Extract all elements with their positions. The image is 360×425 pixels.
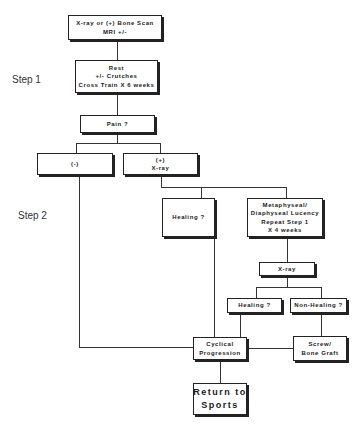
edge-to-healing-2 [256, 287, 257, 298]
node-imaging-line-2: MRI +/- [103, 28, 127, 36]
node-rest-line-1: Rest [109, 64, 124, 72]
node-lucency: Metaphyseal/ Diaphyseal Lucency Repeat S… [247, 198, 323, 237]
node-screw: Screw/ Bone Graft [293, 336, 347, 361]
edge-positive-split [161, 187, 286, 188]
node-imaging-line-1: X-ray or (+) Bone Scan [76, 19, 154, 27]
node-xray-2: X-ray [259, 262, 315, 276]
edge-rest-pain [117, 93, 118, 115]
node-rest-line-2: +/- Crutches [95, 72, 137, 80]
node-rest-line-3: Cross Train X 6 weeks [79, 81, 155, 89]
edge-to-healing-1 [201, 187, 202, 198]
node-negative: (-) [37, 153, 113, 175]
node-xray-2-line-1: X-ray [278, 265, 296, 273]
node-positive-line-1: (+) [156, 156, 165, 164]
node-rest: Rest +/- Crutches Cross Train X 6 weeks [75, 60, 158, 93]
edge-cyclical-return [220, 360, 221, 383]
node-positive-line-2: X-ray [151, 164, 169, 172]
node-lucency-line-4: X 4 weeks [268, 226, 302, 234]
node-negative-line-1: (-) [71, 160, 79, 168]
node-healing-2-line-1: Healing ? [238, 301, 270, 309]
node-pain: Pain ? [80, 115, 155, 133]
edge-imaging-rest [117, 40, 118, 60]
node-positive-xray: (+) X-ray [123, 153, 198, 175]
edge-to-positive [160, 143, 161, 153]
edge-negative-down [79, 175, 80, 347]
node-cyclical-line-2: Progression [199, 349, 241, 357]
node-healing-1: Healing ? [162, 198, 215, 237]
edge-to-negative [76, 143, 77, 153]
edge-xray-branch [287, 276, 288, 287]
edge-non-healing-screw [321, 313, 322, 336]
edge-xray-split [256, 287, 322, 288]
node-healing-2: Healing ? [227, 298, 282, 313]
edge-pain-branch [117, 133, 118, 143]
node-cyclical: Cyclical Progression [193, 337, 247, 360]
node-lucency-line-2: Diaphyseal Lucency [251, 209, 320, 217]
edge-healing-1-cyclical [214, 237, 215, 337]
node-pain-line-1: Pain ? [107, 120, 129, 128]
edge-healing-2-cyclical [240, 313, 241, 337]
node-imaging: X-ray or (+) Bone Scan MRI +/- [68, 15, 162, 40]
node-non-healing: Non-Healing ? [290, 298, 347, 313]
step-1-label: Step 1 [12, 74, 41, 85]
node-cyclical-line-1: Cyclical [206, 340, 233, 348]
edge-pain-split [76, 143, 161, 144]
node-healing-1-line-1: Healing ? [172, 213, 204, 221]
edge-screw-cyclical [247, 348, 293, 349]
node-non-healing-line-1: Non-Healing ? [294, 301, 342, 309]
node-screw-line-1: Screw/ [309, 340, 332, 348]
node-return-line-1: Return to [193, 386, 247, 400]
node-return: Return to Sports [193, 383, 247, 415]
node-screw-line-2: Bone Graft [301, 349, 338, 357]
step-2-label: Step 2 [18, 210, 47, 221]
edge-to-lucency [286, 187, 287, 198]
node-lucency-line-3: Repeat Step 1 [261, 218, 308, 226]
node-return-line-2: Sports [201, 399, 239, 413]
node-lucency-line-1: Metaphyseal/ [263, 201, 308, 209]
edge-lucency-xray [287, 237, 288, 262]
edge-to-non-healing [321, 287, 322, 298]
edge-negative-cyclical [79, 347, 193, 348]
